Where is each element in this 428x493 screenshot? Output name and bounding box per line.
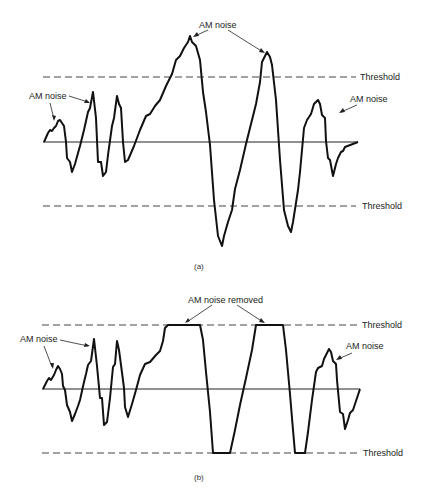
waveform-a	[44, 36, 358, 246]
arrowhead-right-b	[336, 355, 342, 360]
caption-a: (a)	[194, 262, 204, 271]
arrow-top-b1	[187, 305, 212, 322]
arrowhead-left-a1	[52, 115, 56, 121]
am-noise-label-left-b: AM noise	[20, 334, 58, 344]
threshold-upper-label-a: Threshold	[360, 72, 400, 82]
arrowhead-top-a1	[193, 32, 199, 37]
arrowhead-right-a	[339, 108, 345, 113]
arrow-left-b2	[60, 340, 88, 346]
am-noise-label-left-a: AM noise	[29, 91, 67, 101]
arrow-top-a2	[228, 30, 263, 52]
arrow-top-b2	[237, 305, 263, 322]
am-noise-label-top-a: AM noise	[199, 20, 237, 30]
limiter-diagram: Threshold Threshold AM noise AM noise AM…	[0, 0, 428, 493]
panel-a: Threshold Threshold AM noise AM noise AM…	[29, 20, 402, 271]
panel-b: Threshold Threshold AM noise AM noise re…	[20, 295, 403, 482]
arrowhead-top-b2	[259, 318, 265, 323]
caption-b: (b)	[194, 473, 204, 482]
arrowhead-top-b1	[185, 318, 190, 323]
arrowhead-left-b1	[50, 363, 54, 369]
arrowhead-left-b2	[84, 343, 90, 347]
am-noise-label-right-a: AM noise	[350, 94, 388, 104]
am-noise-label-right-b: AM noise	[346, 341, 384, 351]
threshold-lower-label-b: Threshold	[363, 448, 403, 458]
am-noise-removed-label: AM noise removed	[188, 295, 263, 305]
threshold-upper-label-b: Threshold	[362, 320, 402, 330]
arrowhead-top-a2	[259, 48, 265, 53]
threshold-lower-label-a: Threshold	[362, 201, 402, 211]
